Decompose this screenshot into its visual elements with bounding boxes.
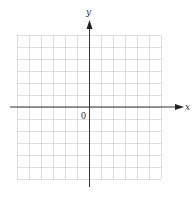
- y-axis-arrow-icon: [87, 20, 93, 29]
- y-axis-label: y: [85, 7, 92, 17]
- origin-label: 0: [81, 110, 86, 121]
- coordinate-plane: x y 0: [0, 0, 196, 197]
- x-axis-arrow-icon: [175, 104, 184, 110]
- x-axis-label: x: [185, 102, 190, 112]
